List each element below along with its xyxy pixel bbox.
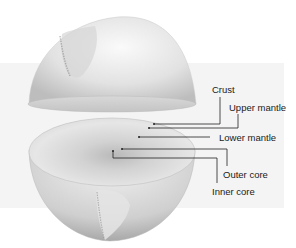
label-outer-core: Outer core (223, 169, 268, 180)
label-crust: Crust (212, 84, 235, 95)
label-upper-mantle: Upper mantle (229, 102, 286, 113)
upper-hemisphere (28, 17, 196, 112)
label-lower-mantle: Lower mantle (219, 132, 276, 143)
label-inner-core: Inner core (212, 186, 255, 197)
lower-hemisphere (29, 118, 195, 241)
earth-cutaway-illustration (0, 0, 296, 248)
